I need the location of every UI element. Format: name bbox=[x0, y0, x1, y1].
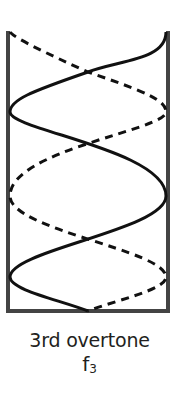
diagram-caption: 3rd overtone bbox=[0, 328, 179, 352]
wave-solid bbox=[10, 32, 166, 311]
frequency-symbol: f3 bbox=[0, 352, 179, 379]
frequency-subscript: 3 bbox=[89, 362, 97, 376]
wave-dashed bbox=[10, 32, 166, 311]
